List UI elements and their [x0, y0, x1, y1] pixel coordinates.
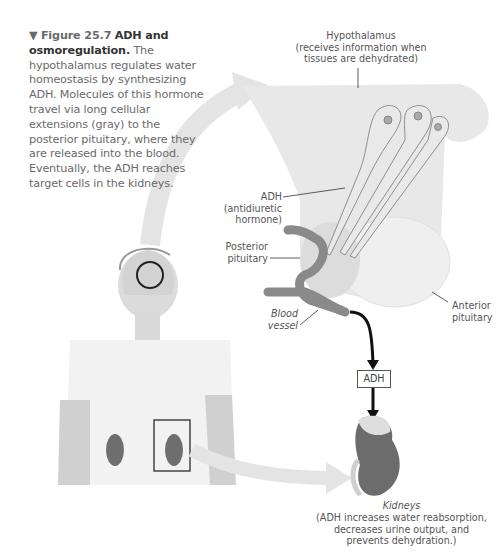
- label-posterior-line2: pituitary: [214, 253, 268, 265]
- person-figure: [58, 250, 236, 485]
- kidney-large: [353, 416, 400, 496]
- figure-marker-icon: ▼: [29, 29, 37, 42]
- adh-box: ADH: [357, 370, 391, 388]
- label-kidneys-desc2: decreases urine output, and: [300, 524, 503, 536]
- label-blood-line2: vessel: [254, 320, 298, 332]
- label-posterior-line1: Posterior: [214, 241, 268, 253]
- label-hypothalamus: Hypothalamus (receives information when …: [290, 30, 432, 65]
- label-hypothalamus-title: Hypothalamus: [290, 30, 432, 42]
- label-anterior-line2: pituitary: [452, 312, 502, 324]
- arrow-vessel-to-adh: [350, 312, 373, 365]
- label-kidneys-title: Kidneys: [300, 500, 503, 512]
- label-blood-vessel: Blood vessel: [254, 308, 298, 331]
- label-adh: ADH (antidiuretic hormone): [216, 191, 282, 226]
- label-hypothalamus-desc2: tissues are dehydrated): [290, 53, 432, 65]
- label-adh-desc2: hormone): [216, 214, 282, 226]
- label-posterior-pituitary: Posterior pituitary: [214, 241, 268, 264]
- label-kidneys-desc1: (ADH increases water reabsorption,: [300, 512, 503, 524]
- figure-caption: ▼ Figure 25.7 ADH and osmoregulation. Th…: [29, 29, 207, 192]
- label-adh-title: ADH: [216, 191, 282, 203]
- label-kidneys-desc3: prevents dehydration.): [300, 535, 503, 547]
- figure-number: Figure 25.7: [41, 29, 111, 42]
- label-anterior-pituitary: Anterior pituitary: [452, 300, 502, 323]
- figure-body: The hypothalamus regulates water homeost…: [29, 44, 204, 190]
- label-anterior-line1: Anterior: [452, 300, 502, 312]
- label-kidneys: Kidneys (ADH increases water reabsorptio…: [300, 500, 503, 547]
- label-adh-desc1: (antidiuretic: [216, 203, 282, 215]
- label-blood-line1: Blood: [254, 308, 298, 320]
- label-hypothalamus-desc1: (receives information when: [290, 42, 432, 54]
